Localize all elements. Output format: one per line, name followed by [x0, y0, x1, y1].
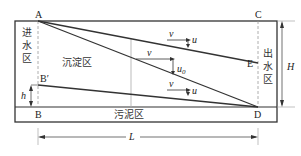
settling-zone-label: 沉淀区 [62, 56, 92, 68]
outlet-zone-char-1: 出 [263, 47, 273, 59]
L-label: L [128, 131, 135, 142]
h-label: h [21, 90, 26, 101]
u0-label: u0 [177, 63, 186, 76]
sludge-zone-label: 污泥区 [114, 108, 144, 120]
point-D-label: D [254, 109, 261, 120]
outlet-zone-char-2: 水 [263, 61, 273, 72]
inlet-zone-char-2: 水 [22, 40, 32, 51]
outlet-zone-char-3: 区 [263, 74, 273, 85]
v-label-2: v [147, 47, 152, 58]
dimension-L [38, 128, 258, 145]
point-C-label: C [255, 9, 262, 20]
dimension-h [29, 85, 38, 107]
point-E-label: E [247, 58, 253, 69]
v-label-1: v [169, 28, 174, 39]
inlet-zone-char-3: 区 [22, 53, 32, 64]
sedimentation-diagram: A C E B′ B D 进 水 区 沉淀区 出 水 区 污泥区 H h L v… [0, 0, 301, 156]
trajectory-Bprime-D [38, 85, 258, 107]
u-label-3: u [192, 85, 197, 96]
point-B-label: B [35, 109, 42, 120]
H-label: H [286, 61, 295, 72]
velocity-vector-3 [167, 88, 191, 96]
u-label-1: u [192, 34, 197, 45]
inlet-zone-char-1: 进 [22, 27, 32, 38]
point-A-label: A [35, 9, 43, 20]
point-Bprime-label: B′ [40, 73, 49, 84]
v-label-3: v [169, 78, 174, 89]
